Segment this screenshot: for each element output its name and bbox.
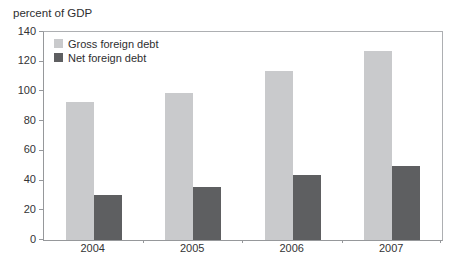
y-axis-tick-label: 140 (8, 25, 36, 37)
bar-net-foreign-debt-2007 (392, 166, 420, 240)
bar-net-foreign-debt-2005 (193, 187, 221, 240)
bar-net-foreign-debt-2006 (293, 175, 321, 240)
y-axis-tick-label: 40 (8, 173, 36, 185)
legend-swatch-gross-icon (54, 39, 63, 48)
legend-label-net: Net foreign debt (68, 52, 146, 64)
x-axis-tick (143, 240, 144, 243)
legend-item-gross-foreign-debt: Gross foreign debt (54, 37, 159, 50)
bar-net-foreign-debt-2004 (94, 195, 122, 240)
y-axis-tick (39, 180, 43, 181)
x-axis-tick (342, 240, 343, 243)
y-axis-tick (39, 31, 43, 32)
bar-gross-foreign-debt-2007 (364, 51, 392, 240)
y-axis-tick-label: 80 (8, 114, 36, 126)
y-axis-tick-label: 100 (8, 84, 36, 96)
y-axis-tick (39, 120, 43, 121)
y-axis-tick (39, 150, 43, 151)
legend-swatch-net-icon (54, 53, 63, 62)
legend: Gross foreign debt Net foreign debt (54, 37, 159, 65)
x-axis-tick-label: 2005 (162, 242, 222, 254)
y-axis-tick (39, 90, 43, 91)
x-axis-tick (242, 240, 243, 243)
y-axis-tick-label: 0 (8, 233, 36, 245)
y-axis-tick (39, 239, 43, 240)
bar-gross-foreign-debt-2006 (265, 71, 293, 240)
x-axis-tick-label: 2004 (63, 242, 123, 254)
plot-area: Gross foreign debt Net foreign debt (43, 31, 443, 241)
legend-label-gross: Gross foreign debt (68, 38, 159, 50)
legend-item-net-foreign-debt: Net foreign debt (54, 51, 159, 64)
y-axis-tick (39, 61, 43, 62)
chart-figure: percent of GDP Gross foreign debt Net fo… (0, 0, 460, 257)
bar-gross-foreign-debt-2005 (165, 93, 193, 240)
y-axis-tick (39, 209, 43, 210)
x-axis-tick (440, 240, 441, 243)
y-axis-tick-label: 60 (8, 143, 36, 155)
bar-gross-foreign-debt-2004 (66, 102, 94, 240)
x-axis-tick-label: 2007 (361, 242, 421, 254)
y-axis-tick-label: 120 (8, 54, 36, 66)
x-axis-tick-label: 2006 (262, 242, 322, 254)
chart-title: percent of GDP (13, 7, 92, 19)
y-axis-tick-label: 20 (8, 203, 36, 215)
